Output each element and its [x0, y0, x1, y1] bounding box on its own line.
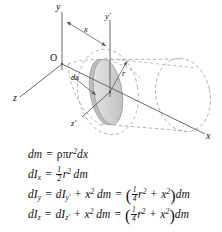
equation-dIy-text: dIy=dIy′+x2dm=(14r2+x2)dm — [28, 188, 190, 200]
cylinder-diagram: y O z x y′ — [0, 0, 222, 145]
equation-dIz-text: dIz=dIz′+x2dm=(14r2+x2)dm — [28, 208, 189, 220]
frac-numerator: 1 — [131, 206, 137, 214]
dimension-dx-label: dx — [71, 72, 79, 82]
z-axis-label: z — [12, 92, 17, 103]
z-prime-axis-label: z′ — [70, 118, 76, 128]
equation-dIy: dIy=dIy′+x2dm=(14r2+x2)dm — [0, 182, 222, 202]
equations-list: dm=ρπr2dx dIx=12r2dm dIy=dIy′+x2dm=(14r2… — [0, 142, 222, 232]
equation-dIz: dIz=dIz′+x2dm=(14r2+x2)dm — [0, 202, 222, 222]
y-axis-label: y — [55, 1, 61, 12]
x-axis: x — [62, 64, 211, 141]
disk-element — [85, 57, 127, 127]
z-axis: z — [12, 64, 62, 103]
origin-marker: O — [50, 52, 63, 65]
x-axis-label: x — [205, 130, 211, 141]
equation-mass-element-text: dm=ρπr2dx — [28, 148, 88, 160]
figure-root: y O z x y′ — [0, 0, 222, 232]
cylinder-far-end — [149, 53, 217, 137]
diagram-area: y O z x y′ — [0, 0, 222, 145]
dimension-r-label: r — [122, 68, 126, 78]
frac-numerator: 1 — [56, 166, 62, 174]
equation-mass-element: dm=ρπr2dx — [0, 142, 222, 162]
y-prime-axis-label: y′ — [104, 11, 111, 21]
frac-numerator: 1 — [132, 186, 138, 194]
dimension-x-label: x — [83, 24, 88, 34]
open-paren: ( — [125, 207, 130, 224]
equation-dIx-text: dIx=12r2dm — [28, 168, 88, 180]
dimension-x: x — [67, 22, 106, 46]
origin-label: O — [50, 52, 57, 63]
frac-denominator: 4 — [131, 214, 137, 223]
equation-dIx: dIx=12r2dm — [0, 162, 222, 182]
